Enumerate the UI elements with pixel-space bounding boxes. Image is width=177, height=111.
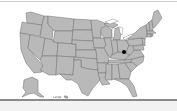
- state-colorado[interactable]: [57, 43, 76, 57]
- state-maine[interactable]: [152, 10, 162, 28]
- state-alaska[interactable]: [22, 77, 44, 97]
- state-montana[interactable]: [48, 16, 74, 31]
- state-new-york[interactable]: [128, 25, 147, 39]
- map-panel[interactable]: [0, 2, 177, 99]
- state-wyoming[interactable]: [53, 31, 73, 44]
- state-new-mexico[interactable]: [56, 56, 74, 75]
- state-iowa[interactable]: [93, 38, 106, 48]
- state-south-dakota[interactable]: [72, 30, 93, 41]
- state-rhode-island[interactable]: [151, 34, 153, 37]
- state-massachusetts[interactable]: [147, 31, 156, 34]
- state-wisconsin[interactable]: [101, 26, 112, 38]
- state-hawaii[interactable]: [64, 96, 68, 98]
- footer-area: [0, 101, 177, 111]
- state-connecticut[interactable]: [147, 34, 151, 37]
- state-florida[interactable]: [114, 79, 137, 97]
- state-arizona[interactable]: [40, 56, 57, 75]
- us-map[interactable]: [0, 2, 177, 99]
- state-mississippi[interactable]: [105, 64, 112, 80]
- location-marker[interactable]: [122, 50, 126, 54]
- state-north-dakota[interactable]: [73, 19, 92, 30]
- state-maryland[interactable]: [133, 45, 144, 50]
